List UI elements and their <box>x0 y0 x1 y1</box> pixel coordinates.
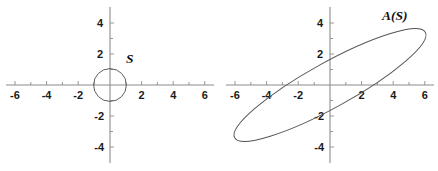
right-x-tick-label-6: 6 <box>422 89 428 101</box>
right-y-tick-label--4: -4 <box>314 141 325 153</box>
panel-right: -6 -4 -2 2 4 6 4 2 -2 -4 A(S) <box>224 7 436 163</box>
left-x-tick-label-2: 2 <box>139 89 145 101</box>
left-x-tick-label--2: -2 <box>73 89 83 101</box>
label-a-of-s: A(S) <box>381 8 408 23</box>
figure-canvas: -6 -4 -2 2 4 6 4 2 -2 -4 S <box>0 0 438 171</box>
left-y-tick-label--2: -2 <box>94 110 104 122</box>
right-y-tick-label-2: 2 <box>317 48 323 60</box>
left-x-tick-label--4: -4 <box>42 89 53 101</box>
left-y-tick-label-4: 4 <box>97 17 104 29</box>
left-x-tick-label--6: -6 <box>10 89 20 101</box>
left-x-tick-label-4: 4 <box>170 89 177 101</box>
right-x-tick-label--6: -6 <box>230 89 240 101</box>
right-x-tick-label--2: -2 <box>293 89 303 101</box>
right-y-tick-label-4: 4 <box>317 17 324 29</box>
left-y-tick-label--4: -4 <box>94 141 105 153</box>
linear-transformation-figure: -6 -4 -2 2 4 6 4 2 -2 -4 S <box>0 0 438 171</box>
left-y-tick-label-2: 2 <box>97 48 103 60</box>
panel-left: -6 -4 -2 2 4 6 4 2 -2 -4 S <box>6 7 214 163</box>
label-s: S <box>126 51 134 66</box>
right-x-tick-label-4: 4 <box>390 89 397 101</box>
left-x-tick-label-6: 6 <box>202 89 208 101</box>
